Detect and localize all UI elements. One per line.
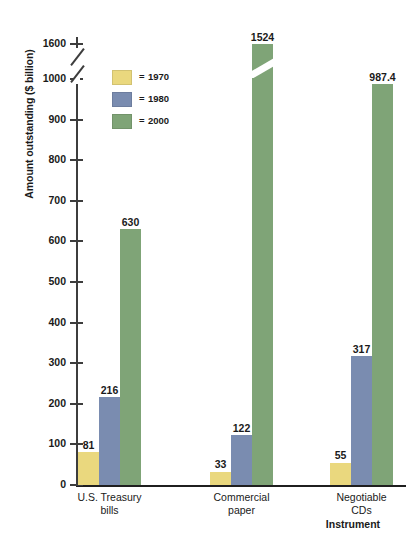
y-axis-line (76, 37, 78, 485)
y-tick-200 (70, 403, 83, 405)
y-tick-label-600: 600 (20, 235, 66, 246)
legend-label-1970: 1970 (148, 71, 169, 82)
bar-value-label: 317 (353, 344, 371, 355)
bar-1970-2: 33 (210, 472, 231, 485)
legend-equals-sign: = (139, 93, 145, 104)
bar-2000-2: 1524 (252, 44, 273, 485)
bar-value-label: 81 (83, 440, 95, 451)
y-tick-label-300: 300 (20, 357, 66, 368)
y-tick-500 (70, 281, 83, 283)
legend-swatch-1980 (112, 92, 132, 107)
legend-swatch-1970 (112, 70, 132, 85)
y-tick-label-400: 400 (20, 317, 66, 328)
bar-1980-1: 216 (99, 397, 120, 485)
y-tick-label-100: 100 (20, 438, 66, 449)
bar-1980-3: 317 (351, 356, 372, 485)
y-tick-700 (70, 200, 83, 202)
y-tick-100 (70, 443, 83, 445)
category-label-2: Commercialpaper (182, 491, 302, 517)
category-label-1: U.S. Treasurybills (50, 491, 170, 517)
bar-value-label: 1524 (251, 32, 274, 43)
bar-value-label: 33 (215, 459, 227, 470)
legend-equals-sign: = (139, 71, 145, 82)
y-tick-label-1000: 1000 (20, 73, 66, 84)
y-tick-600 (70, 240, 83, 242)
y-tick-label-500: 500 (20, 276, 66, 287)
y-tick-label-0: 0 (20, 479, 66, 490)
y-tick-label-1600: 1600 (20, 38, 66, 49)
legend-label-1980: 1980 (148, 93, 169, 104)
bar-1970-3: 55 (330, 463, 351, 485)
legend-equals-sign: = (139, 115, 145, 126)
y-tick-300 (70, 362, 83, 364)
bar-value-label: 122 (233, 423, 251, 434)
y-tick-label-800: 800 (20, 154, 66, 165)
bar-value-label: 630 (122, 217, 140, 228)
bar-value-label: 987.4 (369, 72, 395, 83)
y-tick-label-900: 900 (20, 114, 66, 125)
y-tick-1000 (70, 78, 83, 80)
y-tick-400 (70, 322, 83, 324)
bar-value-label: 216 (101, 385, 119, 396)
y-tick-1600 (70, 43, 83, 45)
bar-2000-3: 987.4 (372, 84, 393, 485)
bar-chart: Amount outstanding ($ billion) 010020030… (0, 0, 418, 540)
legend-label-2000: 2000 (148, 115, 169, 126)
bar-2000-1: 630 (120, 229, 141, 485)
y-tick-900 (70, 119, 83, 121)
y-tick-label-200: 200 (20, 398, 66, 409)
y-tick-label-700: 700 (20, 195, 66, 206)
bar-value-label: 55 (335, 450, 347, 461)
category-label-3: NegotiableCDs (302, 491, 418, 517)
legend-swatch-2000 (112, 114, 132, 129)
x-axis-line (76, 485, 406, 487)
y-tick-800 (70, 159, 83, 161)
bar-1970-1: 81 (78, 452, 99, 485)
bar-1980-2: 122 (231, 435, 252, 485)
x-axis-title: Instrument (298, 518, 408, 530)
bar-break-icon (250, 58, 276, 78)
